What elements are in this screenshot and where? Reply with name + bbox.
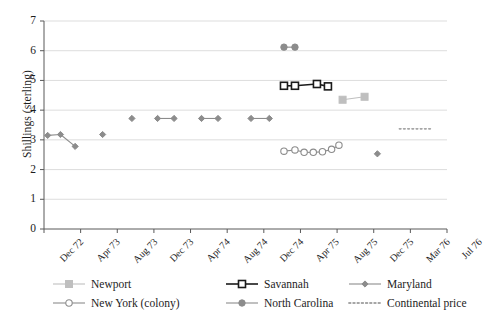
axes	[40, 21, 447, 233]
y-tick-label: 6	[16, 44, 36, 56]
legend-item-savannah[interactable]: Savannah	[225, 276, 309, 292]
data-point-circle-open	[66, 300, 72, 306]
legend-label-newport: Newport	[91, 277, 131, 291]
legend-swatch-north-carolina	[225, 296, 259, 310]
data-point-circle-open	[319, 149, 325, 155]
data-point-diamond	[100, 131, 106, 137]
data-point-circle	[281, 44, 287, 50]
data-point-circle-open	[310, 149, 316, 155]
series-new-york-colony	[281, 142, 342, 156]
data-point-circle	[292, 44, 298, 50]
data-point-square-open	[324, 83, 331, 90]
data-point-square	[66, 281, 73, 288]
data-point-square-open	[280, 82, 287, 89]
data-point-diamond	[129, 115, 135, 121]
data-point-diamond	[154, 115, 160, 121]
legend-swatch-maryland	[348, 277, 382, 291]
data-point-square	[339, 96, 346, 103]
data-point-diamond	[171, 115, 177, 121]
data-point-circle-open	[292, 147, 298, 153]
data-point-square-open	[291, 82, 298, 89]
data-point-diamond	[215, 115, 221, 121]
series-north-carolina	[281, 44, 298, 50]
data-point-diamond	[266, 115, 272, 121]
y-tick-label: 1	[16, 192, 36, 204]
legend-label-north-carolina: North Carolina	[264, 296, 333, 310]
data-point-circle-open	[281, 148, 287, 154]
legend-item-newport[interactable]: Newport	[52, 276, 131, 292]
y-tick-label: 2	[16, 163, 36, 175]
data-point-diamond	[374, 151, 380, 157]
legend-swatch-continental-price	[348, 296, 382, 310]
data-point-circle-open	[336, 142, 342, 148]
y-tick-label: 5	[16, 73, 36, 85]
gridlines	[44, 21, 447, 199]
data-point-circle	[239, 300, 245, 306]
series-newport	[339, 93, 368, 103]
legend-swatch-new-york-colony	[52, 296, 86, 310]
legend-label-savannah: Savannah	[264, 277, 309, 291]
series-line	[60, 135, 75, 147]
legend-swatch-newport	[52, 277, 86, 291]
data-point-diamond	[248, 115, 254, 121]
legend-swatch-savannah	[225, 277, 259, 291]
legend-item-maryland[interactable]: Maryland	[348, 276, 432, 292]
legend-item-new-york-colony[interactable]: New York (colony)	[52, 295, 179, 311]
data-point-square-open	[239, 281, 246, 288]
data-point-diamond	[362, 281, 368, 287]
y-tick-label: 4	[16, 103, 36, 115]
data-point-diamond	[45, 132, 51, 138]
data-point-square-open	[313, 80, 320, 87]
legend-item-continental-price[interactable]: Continental price	[348, 295, 467, 311]
data-point-circle-open	[301, 149, 307, 155]
legend-label-new-york-colony: New York (colony)	[91, 296, 179, 310]
chart-legend: NewportSavannahMarylandNew York (colony)…	[0, 276, 466, 326]
data-point-diamond	[198, 115, 204, 121]
data-point-square	[361, 93, 368, 100]
y-tick-label: 3	[16, 133, 36, 145]
legend-item-north-carolina[interactable]: North Carolina	[225, 295, 333, 311]
legend-label-continental-price: Continental price	[387, 296, 467, 310]
series-savannah	[280, 80, 331, 89]
data-point-circle-open	[328, 146, 334, 152]
y-tick-label: 0	[16, 222, 36, 234]
legend-label-maryland: Maryland	[387, 277, 432, 291]
y-tick-label: 7	[16, 14, 36, 26]
